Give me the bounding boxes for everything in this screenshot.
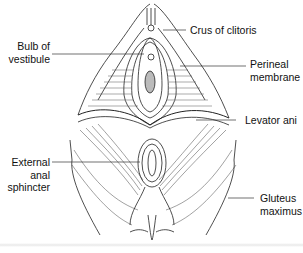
label-perineal-membrane: Perineal membrane [250,58,300,83]
label-crus-of-clitoris: Crus of clitoris [190,24,257,37]
bottom-divider [0,243,303,247]
label-external-anal-sphincter: External anal sphincter [4,156,50,194]
label-text: Crus of clitoris [190,24,257,37]
label-text: Bulb of [6,40,50,53]
label-text: External [4,156,50,169]
label-levator-ani: Levator ani [245,114,297,127]
label-text: sphincter [4,181,50,194]
urogenital-triangle-outline [78,4,229,118]
label-text: anal [4,169,50,182]
label-text: Gluteus [260,192,302,205]
label-text: membrane [250,71,300,84]
perineum-diagram [0,0,303,253]
label-text: vestibule [6,53,50,66]
label-text: Perineal [250,58,300,71]
levator-ani [78,110,229,125]
label-gluteus-maximus: Gluteus maximus [260,192,302,217]
label-text: maximus [260,205,302,218]
label-bulb-of-vestibule: Bulb of vestibule [6,40,50,65]
label-text: Levator ani [245,114,297,127]
